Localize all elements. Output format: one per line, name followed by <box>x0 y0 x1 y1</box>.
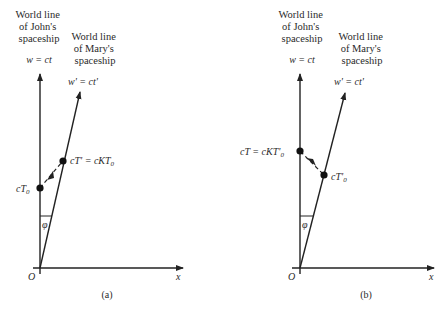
point-upper-label: cT' = cKT0 <box>70 155 115 168</box>
john-equation: w = ct <box>289 54 315 65</box>
mary-title: World line of Mary's spaceship <box>72 31 119 66</box>
angle-label: φ <box>42 219 48 230</box>
x-axis-label: x <box>175 271 181 282</box>
x-axis-label: x <box>428 271 434 282</box>
panel-b: φ World line of John's spaceship w = ct … <box>240 9 434 301</box>
origin-label: O <box>28 271 35 282</box>
mary-equation: w' = ct' <box>334 76 365 87</box>
event-dot <box>320 171 327 178</box>
caption: (a) <box>101 289 112 301</box>
john-equation: w = ct <box>26 54 52 65</box>
signal-arrow-icon <box>306 158 316 166</box>
light-signal <box>301 152 323 174</box>
caption: (b) <box>360 289 372 301</box>
event-dot <box>36 184 43 191</box>
event-dot <box>296 147 303 154</box>
signal-arrow-icon <box>47 171 54 180</box>
point-upper-label: cT = cKT'0 <box>240 146 284 159</box>
john-title: World line of John's spaceship <box>279 9 326 44</box>
point-lower-label: cT0 <box>16 183 30 196</box>
mary-title: World line of Mary's spaceship <box>339 31 386 66</box>
spacetime-diagram: φ World line of John's spaceship w = ct … <box>0 0 443 310</box>
origin-label: O <box>288 271 295 282</box>
john-title: World line of John's spaceship <box>16 9 63 44</box>
event-dot <box>59 157 66 164</box>
angle-label: φ <box>302 219 308 230</box>
point-lower-label: cT'0 <box>331 171 347 184</box>
mary-equation: w' = ct' <box>68 76 99 87</box>
panel-a: φ World line of John's spaceship w = ct … <box>16 9 183 301</box>
